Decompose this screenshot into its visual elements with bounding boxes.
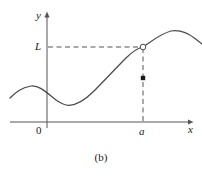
function-value-dot bbox=[141, 76, 145, 80]
y-axis-label: y bbox=[36, 10, 41, 21]
limit-value-label: L bbox=[35, 41, 41, 52]
limit-figure: y x L a 0 (b) bbox=[0, 0, 202, 177]
x-axis-label: x bbox=[188, 124, 193, 135]
figure-caption: (b) bbox=[0, 152, 202, 163]
origin-label: 0 bbox=[36, 125, 42, 136]
approach-value-label: a bbox=[139, 126, 145, 137]
limit-point-open-circle bbox=[140, 44, 146, 50]
